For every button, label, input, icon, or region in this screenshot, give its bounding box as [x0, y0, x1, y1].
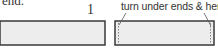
fabric-diagram — [0, 0, 218, 49]
fabric-strip-hemmed — [115, 13, 214, 45]
fabric-strip-plain — [0, 21, 105, 45]
